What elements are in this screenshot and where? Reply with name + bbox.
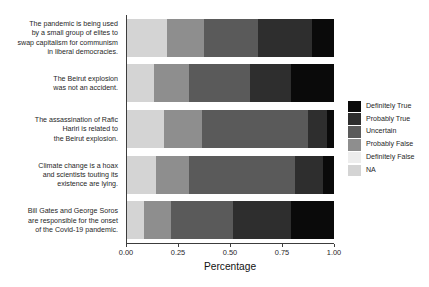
x-axis-tick-label: 0.75 <box>262 248 302 257</box>
bar-segment <box>295 156 323 194</box>
y-axis-label-line: Bill Gates and George Soros <box>4 207 118 216</box>
legend-label: Definitely True <box>366 103 411 110</box>
legend-item[interactable]: Probably True <box>348 113 428 126</box>
y-axis-label-line: by a small group of elites to <box>4 29 118 38</box>
bar-segment <box>233 201 292 239</box>
legend-item[interactable]: Definitely False <box>348 151 428 164</box>
bar-segment <box>250 64 292 102</box>
y-axis-label-line: Hariri is related to <box>4 125 118 134</box>
y-axis-label-line: and scientists touting its <box>4 171 118 180</box>
legend-item[interactable]: Probably False <box>348 138 428 151</box>
y-axis-label-line: The pandemic is being used <box>4 20 118 29</box>
bar-segment <box>127 19 167 57</box>
y-axis-label-line: The assassination of Rafic <box>4 116 118 125</box>
bar-segment <box>189 156 296 194</box>
legend-item[interactable]: NA <box>348 164 428 177</box>
legend-item[interactable]: Definitely True <box>348 100 428 113</box>
x-axis-tick-mark <box>230 244 231 247</box>
bar-segment <box>323 156 334 194</box>
bar-segment <box>312 19 334 57</box>
x-axis-tick-mark <box>126 244 127 247</box>
bar-segment <box>144 201 172 239</box>
x-axis-tick-label: 1.00 <box>314 248 354 257</box>
bar-segment <box>171 201 234 239</box>
bar-segment <box>127 156 157 194</box>
bar-segment <box>164 110 202 148</box>
y-axis-label: Bill Gates and George Sorosare responsib… <box>4 207 118 235</box>
x-axis-tick-mark <box>334 244 335 247</box>
y-axis-label-line: are responsible for the onset <box>4 217 118 226</box>
bar-segment <box>127 201 144 239</box>
bar-segment <box>291 201 334 239</box>
bar-segment <box>204 19 259 57</box>
bar-row <box>127 156 334 194</box>
legend-swatch <box>348 152 361 164</box>
plot-panel <box>126 15 334 243</box>
bar-row <box>127 64 334 102</box>
legend-label: Definitely False <box>366 154 415 161</box>
legend: Definitely TrueProbably TrueUncertainPro… <box>348 100 428 177</box>
bar-row <box>127 19 334 57</box>
y-axis-label-line: Climate change is a hoax <box>4 162 118 171</box>
bar-segment <box>308 110 327 148</box>
legend-swatch <box>348 165 361 177</box>
y-axis-label: Climate change is a hoaxand scientists t… <box>4 162 118 190</box>
bar-segment <box>127 64 155 102</box>
legend-swatch <box>348 101 361 113</box>
y-axis-category-labels: The pandemic is being usedby a small gro… <box>4 16 122 242</box>
y-axis-label: The Beirut explosionwas not an accident. <box>4 75 118 94</box>
stacked-bar-chart: The pandemic is being usedby a small gro… <box>0 0 429 287</box>
y-axis-label-line: swap capitalism for communism <box>4 39 118 48</box>
y-axis-label-line: existence are lying. <box>4 180 118 189</box>
y-axis-label-line: the Beirut explosion. <box>4 135 118 144</box>
legend-swatch <box>348 139 361 151</box>
legend-label: Probably False <box>366 141 413 148</box>
x-axis-tick-label: 0.25 <box>158 248 198 257</box>
bar-segment <box>291 64 334 102</box>
legend-swatch <box>348 126 361 138</box>
bar-segment <box>156 156 190 194</box>
legend-label: NA <box>366 167 376 174</box>
y-axis-label-line: was not an accident. <box>4 84 118 93</box>
bar-segment <box>127 110 165 148</box>
x-axis-tick-label: 0.00 <box>106 248 146 257</box>
y-axis-label: The assassination of RaficHariri is rela… <box>4 116 118 144</box>
bar-segment <box>154 64 190 102</box>
x-axis-tick-mark <box>178 244 179 247</box>
y-axis-label-line: of the Covid-19 pandemic. <box>4 226 118 235</box>
legend-swatch <box>348 113 361 125</box>
y-axis-label: The pandemic is being usedby a small gro… <box>4 20 118 58</box>
bar-segment <box>202 110 309 148</box>
bar-segment <box>167 19 205 57</box>
bar-row <box>127 110 334 148</box>
bar-segment <box>258 19 313 57</box>
y-axis-label-line: in liberal democracies. <box>4 48 118 57</box>
x-axis-title: Percentage <box>126 261 334 272</box>
bar-segment <box>189 64 250 102</box>
bar-row <box>127 201 334 239</box>
x-axis-tick-label: 0.50 <box>210 248 250 257</box>
legend-label: Probably True <box>366 116 410 123</box>
y-axis-label-line: The Beirut explosion <box>4 75 118 84</box>
legend-item[interactable]: Uncertain <box>348 126 428 139</box>
bar-segment <box>327 110 334 148</box>
legend-label: Uncertain <box>366 128 396 135</box>
x-axis-tick-mark <box>282 244 283 247</box>
